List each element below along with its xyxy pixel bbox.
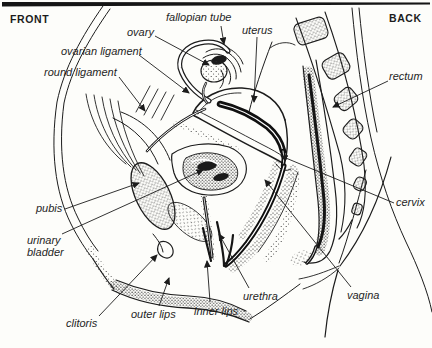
leader-round-ligament [119, 77, 145, 111]
leader-urethra [219, 234, 249, 288]
leader-outer-lips [159, 278, 169, 306]
label-outer-lips: outer lips [131, 308, 176, 320]
label-clitoris: clitoris [66, 317, 97, 329]
label-urethra: urethra [243, 290, 278, 302]
label-pubis: pubis [36, 202, 62, 214]
label-urinary-bladder: urinary bladder [27, 234, 64, 259]
label-uterus: uterus [242, 24, 273, 36]
label-cervix: cervix [396, 196, 425, 208]
leader-vagina [265, 180, 351, 287]
label-vagina: vagina [347, 289, 379, 301]
leader-fallopian-tube [221, 26, 224, 44]
label-round-ligament: round ligament [44, 66, 117, 78]
leader-ovary [155, 36, 209, 65]
leader-inner-lips [207, 261, 210, 302]
leader-urinary-bladder [62, 170, 203, 234]
leader-clitoris [99, 255, 157, 316]
leader-ovarian-ligament [139, 55, 189, 93]
label-rectum: rectum [389, 70, 423, 82]
leader-rectum [333, 81, 388, 107]
front-orientation-label: FRONT [10, 13, 49, 25]
pelvic-anatomy-figure: FRONT BACK fallopian tubeovaryuterusovar… [0, 0, 432, 348]
label-inner-lips: inner lips [194, 305, 238, 317]
back-orientation-label: BACK [389, 12, 422, 24]
label-fallopian-tube: fallopian tube [166, 11, 231, 23]
leader-uterus [254, 37, 257, 102]
leader-cervix [281, 156, 394, 203]
leader-pubis [65, 183, 139, 209]
label-ovary: ovary [127, 26, 154, 38]
label-ovarian-ligament: ovarian ligament [61, 45, 142, 57]
